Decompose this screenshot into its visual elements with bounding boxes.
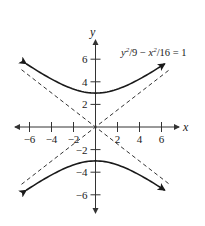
x-tick-label: 4	[137, 133, 143, 145]
y-tick-label: −2	[76, 144, 88, 156]
eq-end: /16 = 1	[157, 47, 187, 58]
eq-mid: /9 −	[129, 47, 148, 58]
hyperbola-chart: −6−4−2246 −6−4−2246 x y y2/9 − x2/16 = 1	[0, 0, 205, 226]
x-tick-label: −6	[24, 133, 36, 145]
y-tick-label: −4	[76, 166, 88, 178]
y-axis-label: y	[89, 25, 96, 39]
x-tick-label: −4	[46, 133, 58, 145]
y-tick-label: 4	[82, 76, 88, 88]
y-tick-label: 6	[82, 53, 88, 65]
y-tick-label: 2	[82, 98, 88, 110]
x-tick-label: 6	[159, 133, 165, 145]
x-axis-label: x	[182, 120, 189, 134]
x-tick-label: 2	[115, 133, 121, 145]
y-tick-label: −6	[76, 189, 88, 201]
equation-label: y2/9 − x2/16 = 1	[120, 46, 187, 58]
